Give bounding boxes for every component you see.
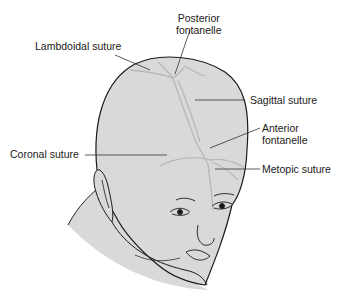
- label-metopic-suture: Metopic suture: [262, 163, 331, 175]
- label-coronal-suture: Coronal suture: [10, 148, 79, 160]
- label-sagittal-suture: Sagittal suture: [250, 94, 317, 106]
- label-anterior-fontanelle: Anterior fontanelle: [262, 122, 308, 146]
- label-posterior-fontanelle: Posterior fontanelle: [176, 12, 222, 36]
- label-lambdoidal-suture: Lambdoidal suture: [35, 40, 121, 52]
